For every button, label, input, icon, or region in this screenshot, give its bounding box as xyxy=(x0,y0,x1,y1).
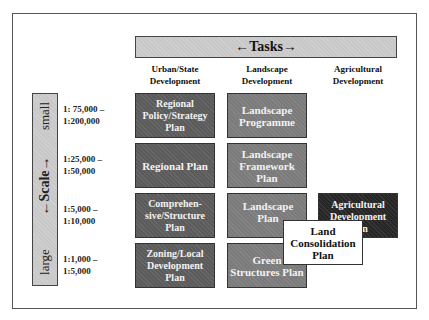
plan-box-regional: Regional Plan xyxy=(135,143,215,188)
tasks-header-bar: ←Tasks→ xyxy=(135,36,397,58)
scale-range-2: 1:25,000 – 1:50,000 xyxy=(63,153,102,177)
scale-range-4: 1:1,000 – 1:5,000 xyxy=(63,253,98,277)
column-header-agricultural: Agricultural Development xyxy=(313,63,403,87)
scale-range-3: 1:5,000 – 1:10,000 xyxy=(63,203,98,227)
scale-label: ←Scale→ xyxy=(37,156,53,215)
column-header-landscape: Landscape Development xyxy=(222,63,312,87)
scale-axis-bar: small ←Scale→ large xyxy=(32,93,58,286)
column-header-urban: Urban/State Development xyxy=(130,63,220,87)
scale-large-label: large xyxy=(37,249,53,275)
plan-box-zoning: Zoning/Local Development Plan xyxy=(135,243,215,288)
tasks-label: ←Tasks→ xyxy=(235,39,297,55)
plan-box-landscape-programme: Landscape Programme xyxy=(227,93,307,138)
plan-box-comprehensive: Comprehen-sive/Structure Plan xyxy=(135,193,215,238)
plan-box-regional-policy: Regional Policy/Strategy Plan xyxy=(135,93,215,138)
scale-range-1: 1: 75,000 – 1:200,000 xyxy=(63,103,104,127)
plan-box-land-consolidation: Land Consolidation Plan xyxy=(283,220,363,265)
scale-small-label: small xyxy=(37,102,53,130)
plan-box-landscape-framework: Landscape Framework Plan xyxy=(227,143,307,188)
